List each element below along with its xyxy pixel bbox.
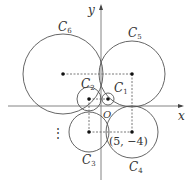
label-c6: C6 [58,20,72,35]
label-c5: C5 [128,26,142,41]
center-dot-c1 [106,97,110,101]
y-axis-arrow-icon [99,4,103,10]
y-axis-label: y [87,3,95,17]
center-dot-c5 [130,72,134,76]
center-dot-c3 [87,130,91,134]
center-dot-c6 [61,72,65,76]
center-dot-c4 [130,130,134,134]
label-c1: C1 [114,81,128,96]
origin-label: O [103,109,111,120]
x-axis-label: x [178,109,185,123]
label-c3: C3 [82,153,96,168]
label-c4: C4 [129,160,143,175]
ellipsis-icon: ⋮ [52,126,64,140]
label-c2: C2 [81,77,95,92]
center-dot-c2 [87,97,91,101]
circles-diagram: C1C2C3C4C5C6 x y O (5, −4) ⋮ [0,0,194,183]
diagram-container: C1C2C3C4C5C6 x y O (5, −4) ⋮ [0,0,194,183]
x-axis-arrow-icon [178,104,184,108]
point-coordinate-label: (5, −4) [109,135,148,148]
